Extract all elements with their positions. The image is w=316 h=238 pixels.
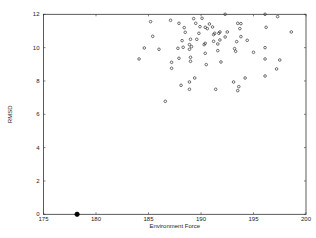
data-point xyxy=(290,31,293,34)
x-tick-label: 180 xyxy=(91,216,102,222)
data-point xyxy=(240,35,243,38)
data-point xyxy=(275,68,278,71)
data-point xyxy=(184,31,187,34)
y-axis-ticks: 024681012 xyxy=(33,11,306,217)
x-tick-label: 190 xyxy=(196,216,207,222)
y-tick-label: 10 xyxy=(33,45,40,51)
data-point xyxy=(158,48,161,51)
data-point xyxy=(205,63,208,66)
x-tick-label: 195 xyxy=(248,216,259,222)
data-point xyxy=(192,17,195,20)
data-point xyxy=(226,31,229,34)
data-point xyxy=(244,77,247,80)
data-point xyxy=(224,36,227,39)
plot-frame xyxy=(44,14,307,214)
data-point xyxy=(240,22,243,25)
data-point xyxy=(238,85,241,88)
data-point xyxy=(212,40,215,43)
data-point xyxy=(220,61,223,64)
data-point xyxy=(214,88,217,91)
data-point xyxy=(276,15,279,18)
data-point xyxy=(138,58,141,61)
data-point xyxy=(189,38,192,41)
data-point xyxy=(170,67,173,70)
data-point xyxy=(183,26,186,29)
data-point xyxy=(219,39,222,42)
data-point xyxy=(189,56,192,59)
scatter-chart: 175180185190195200 024681012 Environment… xyxy=(0,0,316,238)
data-point xyxy=(164,100,167,103)
data-point xyxy=(264,75,267,78)
data-point xyxy=(204,52,207,55)
data-point xyxy=(265,26,268,29)
data-point xyxy=(208,23,211,26)
data-point xyxy=(178,57,181,60)
data-point xyxy=(264,46,267,49)
data-point xyxy=(177,47,180,50)
data-point xyxy=(278,59,281,62)
data-point xyxy=(246,39,249,42)
data-point xyxy=(151,35,154,38)
y-tick-label: 8 xyxy=(36,78,40,84)
data-point xyxy=(188,88,191,91)
data-point xyxy=(149,20,152,23)
data-points xyxy=(75,13,293,217)
data-point xyxy=(188,81,191,84)
data-point xyxy=(264,58,267,61)
data-point xyxy=(194,22,197,25)
data-point xyxy=(188,48,191,51)
data-point xyxy=(211,26,214,29)
data-point xyxy=(252,51,255,54)
x-tick-label: 175 xyxy=(38,216,49,222)
x-axis-title: Environment Force xyxy=(149,223,200,229)
x-axis-ticks: 175180185190195200 xyxy=(38,14,311,222)
data-point xyxy=(206,27,209,30)
data-point xyxy=(234,50,237,53)
data-point xyxy=(196,38,199,41)
data-point xyxy=(232,81,235,84)
data-point xyxy=(217,49,220,52)
x-tick-label: 185 xyxy=(143,216,154,222)
data-point xyxy=(193,77,196,80)
data-point xyxy=(169,19,172,22)
x-tick-label: 200 xyxy=(301,216,312,222)
data-point xyxy=(170,61,173,64)
data-point xyxy=(235,40,238,43)
data-point xyxy=(217,43,220,46)
data-point xyxy=(190,45,193,48)
y-tick-label: 12 xyxy=(33,11,40,17)
data-point xyxy=(143,47,146,50)
data-point xyxy=(201,17,204,20)
y-tick-label: 2 xyxy=(36,178,40,184)
data-point xyxy=(178,22,181,25)
y-tick-label: 4 xyxy=(36,145,40,151)
data-point xyxy=(236,89,239,92)
data-point xyxy=(182,46,185,49)
y-tick-label: 6 xyxy=(36,111,40,117)
data-point xyxy=(189,60,192,63)
data-point xyxy=(233,47,236,50)
data-point xyxy=(236,22,239,25)
data-point xyxy=(239,27,242,30)
reference-point xyxy=(75,212,79,216)
y-axis-title: RMSD xyxy=(7,105,13,123)
data-point xyxy=(198,32,201,35)
data-point xyxy=(181,39,184,42)
data-point xyxy=(199,25,202,28)
data-point xyxy=(180,84,183,87)
